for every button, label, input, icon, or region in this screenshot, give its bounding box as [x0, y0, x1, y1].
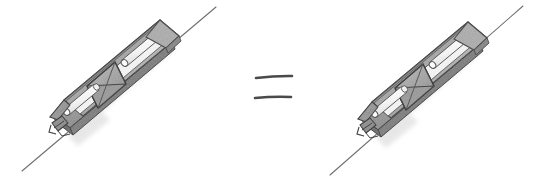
right-assembly-body: [357, 22, 489, 148]
equals-bottom-bar: [255, 97, 291, 98]
sketch-canvas: Left inclined rail assembly Right inclin…: [0, 0, 546, 180]
equals-top-bar: [256, 76, 292, 78]
figure-left-assembly: [22, 7, 216, 171]
left-assembly-body: [49, 20, 181, 146]
equals-sign: [255, 76, 292, 98]
sketch-svg: [0, 0, 546, 180]
figure-right-assembly: [330, 6, 523, 175]
